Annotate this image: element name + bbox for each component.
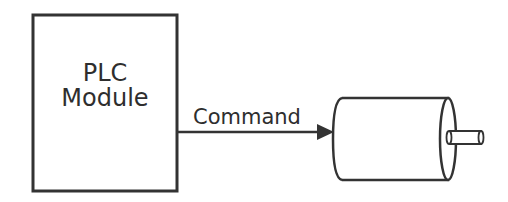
motor-body xyxy=(342,98,448,180)
plc-module-label-line1: PLC xyxy=(83,59,128,87)
motor-icon xyxy=(333,98,484,180)
plc-module-block: PLC Module xyxy=(33,15,177,191)
diagram-canvas: PLC Module Command xyxy=(0,0,508,202)
plc-module-label-line2: Module xyxy=(61,84,148,112)
command-connector: Command xyxy=(177,105,334,140)
motor-back-edge xyxy=(333,98,342,180)
command-label: Command xyxy=(193,105,301,129)
motor-shaft xyxy=(447,131,484,144)
arrowhead-icon xyxy=(317,124,334,140)
